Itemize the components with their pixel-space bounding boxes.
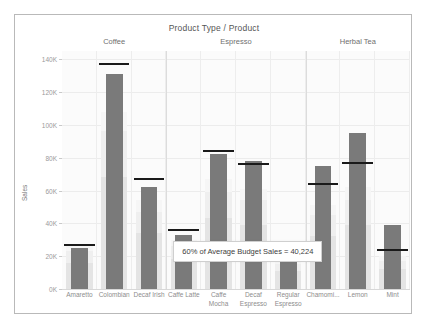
group-header-herbal-tea: Herbal Tea <box>306 37 410 50</box>
x-axis-tick-label[interactable]: Chamomi... <box>306 291 341 300</box>
sales-bar[interactable] <box>245 161 262 289</box>
group-header-coffee: Coffee <box>62 37 166 50</box>
budget-reference-line[interactable] <box>308 183 339 185</box>
y-axis-tick-label: 140K <box>15 56 57 63</box>
budget-reference-line[interactable] <box>134 178 165 180</box>
group-separator <box>166 51 167 289</box>
sales-bar[interactable] <box>210 154 227 289</box>
bar-column[interactable] <box>340 51 375 289</box>
budget-reference-line[interactable] <box>168 229 199 231</box>
sales-bar[interactable] <box>106 74 123 289</box>
x-axis-tick-label[interactable]: Lemon <box>340 291 375 300</box>
y-axis-tick-label: 20K <box>15 253 57 260</box>
x-axis: AmarettoColombianDecaf IrishCaffe LatteC… <box>62 291 410 315</box>
bar-column[interactable] <box>97 51 132 289</box>
chart-card: Product Type / Product CoffeeEspressoHer… <box>14 14 412 314</box>
budget-reference-line[interactable] <box>238 163 269 165</box>
x-axis-tick-label[interactable]: Decaf Irish <box>132 291 167 300</box>
y-axis-tick-label: 0K <box>15 286 57 293</box>
x-axis-tick-label[interactable]: Colombian <box>97 291 132 300</box>
x-axis-tick-label[interactable]: Amaretto <box>62 291 97 300</box>
sales-bar[interactable] <box>349 133 366 289</box>
x-axis-tick-label[interactable]: Mint <box>375 291 410 300</box>
budget-reference-line[interactable] <box>377 249 408 251</box>
y-axis-tick-label: 40K <box>15 220 57 227</box>
reference-line-annotation[interactable]: 60% of Average Budget Sales = 40,224 <box>173 241 322 262</box>
sales-bar[interactable] <box>71 248 88 289</box>
x-axis-tick-label[interactable]: Regular Espresso <box>271 291 306 308</box>
sales-bar[interactable] <box>384 225 401 289</box>
sales-bar[interactable] <box>141 187 158 289</box>
group-header-espresso: Espresso <box>166 37 305 50</box>
group-header-row: CoffeeEspressoHerbal Tea <box>15 37 413 50</box>
bar-column[interactable] <box>375 51 410 289</box>
y-axis-tick-label: 120K <box>15 89 57 96</box>
x-axis-tick-label[interactable]: Caffe Mocha <box>201 291 236 308</box>
bar-column[interactable] <box>132 51 167 289</box>
y-axis-tick-label: 100K <box>15 121 57 128</box>
x-axis-tick-label[interactable]: Decaf Espresso <box>236 291 271 308</box>
gridline <box>62 289 410 290</box>
x-axis-tick-label[interactable]: Caffe Latte <box>166 291 201 300</box>
budget-reference-line[interactable] <box>99 63 130 65</box>
y-axis: Sales 0K20K40K60K80K100K120K140K <box>15 51 62 289</box>
bar-column[interactable] <box>62 51 97 289</box>
budget-reference-line[interactable] <box>342 162 373 164</box>
budget-reference-line[interactable] <box>203 150 234 152</box>
y-axis-tick-label: 60K <box>15 187 57 194</box>
chart-title: Product Type / Product <box>15 23 413 33</box>
y-axis-tick-label: 80K <box>15 154 57 161</box>
chart-screenshot: Product Type / Product CoffeeEspressoHer… <box>0 0 427 335</box>
budget-reference-line[interactable] <box>64 244 95 246</box>
column-separator <box>409 51 410 289</box>
